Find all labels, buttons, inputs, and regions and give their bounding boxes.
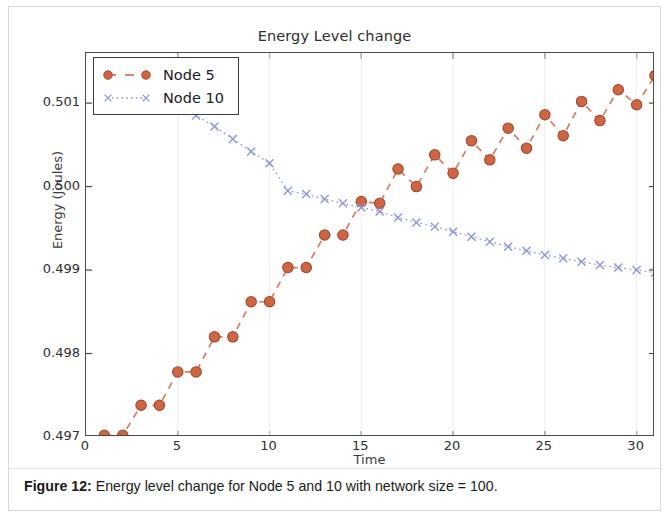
- y-axis-ticks: 0.4970.4980.4990.5000.501: [0, 52, 80, 436]
- figure-page: Energy Level change 0.4970.4980.4990.500…: [0, 0, 669, 520]
- y-tick-label: 0.499: [6, 261, 80, 276]
- figure-caption: Figure 12: Energy level change for Node …: [24, 477, 649, 495]
- caption-divider: [9, 468, 660, 469]
- figure-area: Energy Level change 0.4970.4980.4990.500…: [0, 0, 669, 466]
- y-tick-label: 0.498: [6, 345, 80, 360]
- chart-title: Energy Level change: [0, 28, 669, 44]
- legend-swatch-node-5: [101, 65, 153, 85]
- x-tick-label: 30: [627, 438, 644, 453]
- y-tick-label: 0.501: [6, 94, 80, 109]
- caption-text: Energy level change for Node 5 and 10 wi…: [92, 478, 498, 494]
- legend-label-node-5: Node 5: [163, 67, 215, 83]
- legend-item-node-10[interactable]: Node 10: [101, 86, 224, 109]
- x-tick-label: 5: [173, 438, 181, 453]
- y-tick-label: 0.497: [6, 428, 80, 443]
- y-axis-label: Energy (Joules): [50, 100, 65, 300]
- caption-label: Figure 12:: [24, 478, 92, 494]
- chart-legend: Node 5 Node 10: [93, 57, 239, 115]
- legend-label-node-10: Node 10: [163, 90, 224, 106]
- x-tick-label: 25: [536, 438, 553, 453]
- y-tick-label: 0.500: [6, 178, 80, 193]
- x-tick-label: 10: [260, 438, 277, 453]
- legend-swatch-node-10: [101, 88, 153, 108]
- x-tick-label: 15: [352, 438, 369, 453]
- x-axis-label: Time: [85, 452, 654, 467]
- x-tick-label: 20: [444, 438, 461, 453]
- x-tick-label: 0: [81, 438, 89, 453]
- legend-item-node-5[interactable]: Node 5: [101, 63, 224, 86]
